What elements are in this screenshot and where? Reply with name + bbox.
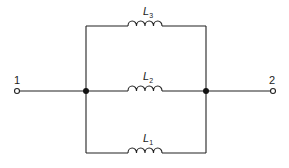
inductor-L2-icon: [128, 86, 162, 91]
junction-right-icon: [203, 88, 209, 94]
inductor-L3-label: L3: [143, 6, 153, 19]
terminal-1-icon: [15, 89, 20, 94]
inductor-L2-label: L2: [143, 71, 153, 84]
terminal-1-label: 1: [14, 75, 20, 86]
inductor-L1-label: L1: [143, 133, 153, 146]
inductor-L3-icon: [128, 21, 162, 26]
junction-left-icon: [83, 88, 89, 94]
inductor-L1-icon: [128, 148, 162, 153]
terminal-2-label: 2: [269, 75, 275, 86]
terminal-2-icon: [271, 89, 276, 94]
